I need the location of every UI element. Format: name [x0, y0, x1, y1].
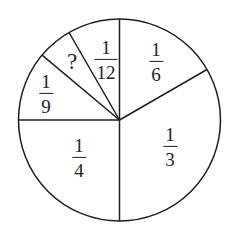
radius-60deg: [120, 70, 208, 121]
numerator: 1: [99, 38, 113, 57]
denominator: 9: [39, 97, 53, 116]
denominator: 6: [149, 65, 163, 84]
numerator: 1: [39, 72, 53, 91]
denominator: 12: [95, 63, 118, 82]
numerator: 1: [163, 125, 177, 144]
pie-chart-svg: [0, 0, 227, 231]
slice-label-one-third: 1 3: [163, 125, 177, 169]
fraction-bar: [95, 59, 118, 60]
fraction-bar: [39, 93, 53, 94]
fraction-bar: [163, 146, 177, 147]
fraction-bar: [72, 157, 86, 158]
slice-label-one-quarter: 1 4: [72, 136, 86, 180]
slice-label-one-twelfth: 1 12: [95, 38, 118, 82]
numerator: 1: [149, 40, 163, 59]
pie-chart: 1 6 1 3 1 4 1 9 ? 1 12: [0, 0, 227, 231]
slice-label-one-sixth: 1 6: [149, 40, 163, 84]
denominator: 3: [163, 150, 177, 169]
denominator: 4: [72, 161, 86, 180]
fraction-bar: [149, 61, 163, 62]
numerator: 1: [72, 136, 86, 155]
slice-label-unknown: ?: [67, 49, 77, 75]
slice-label-one-ninth: 1 9: [39, 72, 53, 116]
